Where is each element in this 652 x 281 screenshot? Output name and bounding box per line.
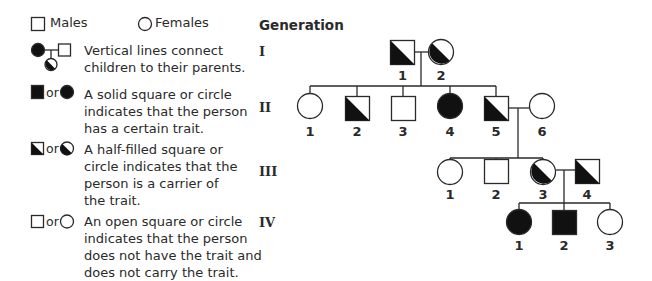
individual-number: 4 [582, 187, 591, 202]
parent-child-line-icon [32, 44, 71, 71]
individual-number: 3 [398, 124, 407, 139]
male-square-icon [32, 18, 45, 31]
female-circle-icon [139, 18, 152, 31]
individual-number: 2 [559, 238, 568, 253]
legend-or-text: or [46, 85, 60, 100]
individual-IV-2 [553, 211, 577, 235]
individual-II-4 [438, 94, 463, 119]
individual-II-3 [392, 97, 416, 121]
individual-III-4 [576, 160, 600, 184]
individual-III-1 [438, 160, 463, 185]
legend-or-text: or [46, 214, 60, 229]
individual-II-5 [485, 97, 509, 121]
individual-number: 1 [398, 68, 407, 83]
individual-IV-3 [598, 210, 623, 235]
individual-III-2 [485, 160, 509, 184]
individual-number: 3 [605, 238, 614, 253]
individual-number: 1 [305, 124, 314, 139]
individual-number: 3 [538, 187, 547, 202]
individual-number: 2 [436, 68, 445, 83]
individual-number: 5 [491, 124, 500, 139]
individual-II-2 [346, 97, 370, 121]
pedigree-chart: or or or 1 2 1 2 3 4 5 6 1 2 3 4 1 2 3 [0, 0, 652, 281]
individual-II-6 [530, 94, 555, 119]
individual-number: 2 [491, 187, 500, 202]
individual-I-1 [391, 41, 415, 65]
legend-or-text: or [46, 141, 60, 156]
individual-number: 1 [445, 187, 454, 202]
individual-number: 2 [352, 124, 361, 139]
individual-III-3 [531, 160, 556, 185]
individual-number: 1 [514, 238, 523, 253]
individual-II-1 [298, 94, 323, 119]
individual-number: 6 [537, 124, 546, 139]
individual-number: 4 [445, 124, 454, 139]
individual-I-2 [429, 40, 454, 65]
individual-IV-1 [507, 210, 532, 235]
